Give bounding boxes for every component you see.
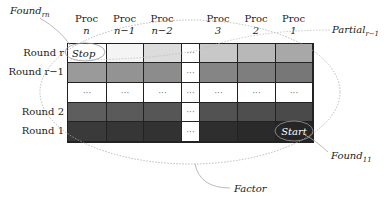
found-rn-leader bbox=[40, 18, 70, 45]
annotation-curves bbox=[0, 0, 386, 206]
stop-ellipse bbox=[65, 43, 105, 61]
start-ellipse bbox=[275, 121, 313, 141]
factor-leader bbox=[195, 164, 230, 188]
factor-ellipse bbox=[40, 20, 340, 164]
partial-leader bbox=[70, 30, 330, 60]
